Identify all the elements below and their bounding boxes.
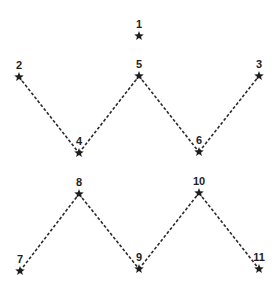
star-icon bbox=[14, 72, 24, 81]
node-label: 11 bbox=[253, 251, 265, 263]
edges-group bbox=[19, 76, 259, 271]
star-icon bbox=[194, 188, 204, 197]
node-3: 3 bbox=[254, 58, 264, 80]
dashed-edge-4-5 bbox=[79, 76, 139, 153]
dashed-edge-7-8 bbox=[20, 194, 79, 271]
node-10: 10 bbox=[193, 175, 205, 197]
node-label: 1 bbox=[136, 18, 142, 30]
dashed-edge-9-10 bbox=[139, 193, 199, 269]
node-8: 8 bbox=[74, 176, 84, 198]
dashed-edge-10-11 bbox=[199, 193, 259, 269]
node-2: 2 bbox=[14, 59, 24, 81]
node-label: 7 bbox=[17, 253, 23, 265]
node-6: 6 bbox=[194, 134, 204, 156]
dashed-edge-5-6 bbox=[139, 76, 199, 152]
node-label: 10 bbox=[193, 175, 205, 187]
dashed-edge-8-9 bbox=[79, 194, 139, 269]
dashed-edge-2-4 bbox=[19, 77, 79, 153]
node-label: 6 bbox=[196, 134, 202, 146]
node-label: 9 bbox=[136, 251, 142, 263]
star-icon bbox=[134, 71, 144, 80]
dashed-edge-6-3 bbox=[199, 76, 259, 152]
node-4: 4 bbox=[74, 135, 84, 157]
node-5: 5 bbox=[134, 58, 144, 80]
node-label: 8 bbox=[76, 176, 82, 188]
node-7: 7 bbox=[15, 253, 25, 275]
node-label: 5 bbox=[136, 58, 142, 70]
star-icon bbox=[134, 31, 144, 40]
star-icon bbox=[74, 189, 84, 198]
dot-diagram: 1234567891011 bbox=[0, 0, 278, 298]
node-label: 3 bbox=[256, 58, 262, 70]
node-9: 9 bbox=[134, 251, 144, 273]
node-label: 2 bbox=[16, 59, 22, 71]
node-label: 4 bbox=[76, 135, 83, 147]
star-icon bbox=[15, 266, 25, 275]
star-icon bbox=[254, 71, 264, 80]
node-11: 11 bbox=[253, 251, 265, 273]
node-1: 1 bbox=[134, 18, 144, 40]
nodes-group: 1234567891011 bbox=[14, 18, 265, 275]
